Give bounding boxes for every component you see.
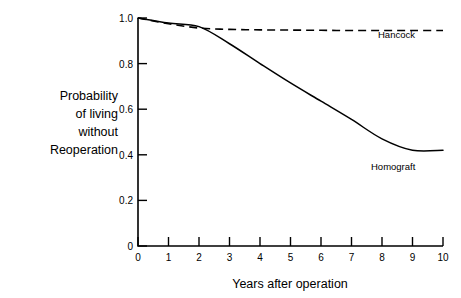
y-axis-title-line-3: without: [77, 125, 118, 139]
x-tick-label: 9: [410, 252, 416, 263]
y-axis-title-line-4: Reoperation: [50, 143, 118, 157]
homograft-series-label: Homograft: [371, 161, 416, 172]
y-tick-label: 1.0: [119, 13, 133, 24]
axes-lines: [138, 18, 443, 246]
y-axis-title-line-2: of living: [76, 107, 118, 121]
y-axis-tick-labels: 1.0 0.8 0.6 0.4 0.2 0: [119, 13, 133, 252]
x-axis-title: Years after operation: [232, 277, 348, 291]
x-tick-label: 8: [379, 252, 385, 263]
y-tick-label: 0.8: [119, 59, 133, 70]
y-axis-title: Probability of living without Reoperatio…: [50, 89, 119, 157]
x-tick-label: 4: [257, 252, 263, 263]
x-tick-label: 6: [318, 252, 324, 263]
x-tick-label: 5: [288, 252, 294, 263]
y-tick-label: 0.4: [119, 150, 133, 161]
x-axis-tick-labels: 0 1 2 3 4 5 6 7 8 9 10: [135, 252, 449, 263]
y-axis-title-line-1: Probability: [60, 89, 119, 103]
x-tick-label: 3: [227, 252, 233, 263]
x-tick-label: 2: [196, 252, 202, 263]
y-tick-label: 0.6: [119, 104, 133, 115]
x-axis-ticks: [138, 237, 443, 246]
x-tick-label: 1: [166, 252, 172, 263]
hancock-series-label: Hancock: [378, 29, 415, 40]
survival-line-chart: Probability of living without Reoperatio…: [0, 0, 461, 298]
y-axis-ticks: [138, 18, 147, 246]
x-tick-label: 0: [135, 252, 141, 263]
y-tick-label: 0: [127, 241, 133, 252]
chart-figure: Probability of living without Reoperatio…: [0, 0, 461, 298]
x-tick-label: 10: [437, 252, 449, 263]
y-tick-label: 0.2: [119, 195, 133, 206]
x-tick-label: 7: [349, 252, 355, 263]
